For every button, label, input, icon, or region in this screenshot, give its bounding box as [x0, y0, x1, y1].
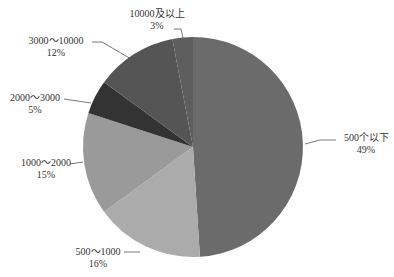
slice-percent-label: 5%	[28, 104, 41, 115]
slice-category-label: 3000～10000	[29, 35, 84, 46]
slice-percent-label: 12%	[47, 47, 65, 58]
leader-line	[92, 42, 131, 59]
leader-line	[64, 99, 91, 103]
leader-line	[70, 162, 83, 164]
slice-percent-label: 16%	[89, 258, 107, 269]
slice-category-label: 500个以下	[344, 132, 389, 143]
slice-category-label: 500～1000	[76, 246, 121, 257]
pie-slice	[193, 37, 303, 257]
pie-chart: 500个以下49%500～100016%1000～200015%2000～300…	[0, 0, 394, 277]
slice-percent-label: 15%	[37, 169, 55, 180]
slice-percent-label: 3%	[150, 20, 163, 31]
leader-line	[174, 29, 183, 38]
leader-line	[305, 140, 336, 144]
slice-category-label: 10000及以上	[130, 8, 185, 19]
slice-category-label: 1000～2000	[21, 157, 71, 168]
slice-percent-label: 49%	[357, 144, 375, 155]
pie-slices	[83, 37, 303, 257]
slice-category-label: 2000～3000	[10, 92, 60, 103]
